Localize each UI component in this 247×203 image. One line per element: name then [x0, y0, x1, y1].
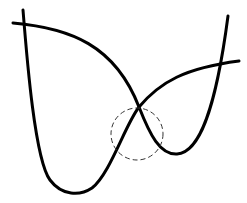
dashed-highlight-circle [111, 108, 163, 160]
curve-b [13, 16, 228, 154]
diagram-canvas [0, 0, 247, 203]
curve-a [23, 10, 239, 193]
